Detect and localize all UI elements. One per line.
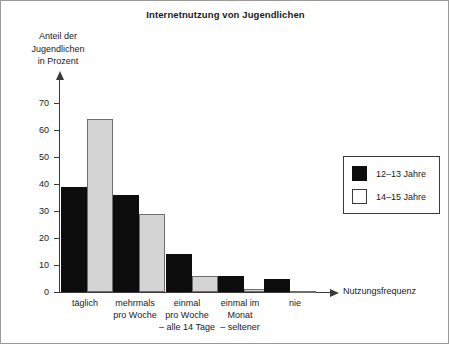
- y-tick-60: [54, 130, 59, 131]
- y-tick-30: [54, 211, 59, 212]
- legend-item-12-13: 12–13 Jahre: [352, 164, 431, 183]
- bar-12-13-einmal-pro-woche: [166, 254, 192, 292]
- y-axis-line: [59, 79, 60, 292]
- y-axis-label-line-2: Jugendlichen: [15, 43, 101, 56]
- legend-label-12-13: 12–13 Jahre: [376, 169, 426, 179]
- x-category-label-nie: nie: [259, 297, 331, 309]
- y-axis-label-line-1: Anteil der: [15, 30, 101, 43]
- chart-figure: Internetnutzung von Jugendlichen Anteil …: [0, 0, 449, 344]
- y-tick-label-40: 40: [17, 180, 49, 189]
- bar-14-15-mehrmals-pro-woche: [139, 214, 165, 292]
- y-tick-40: [54, 184, 59, 185]
- y-tick-label-0: 0: [17, 288, 49, 297]
- bar-14-15-taeglich: [87, 119, 113, 292]
- x-category-line: – seltener: [198, 321, 282, 333]
- y-tick-label-10: 10: [17, 261, 49, 270]
- y-tick-0: [54, 292, 59, 293]
- y-axis-label: Anteil der Jugendlichen in Prozent: [15, 30, 101, 68]
- chart-legend: 12–13 Jahre 14–15 Jahre: [343, 156, 440, 214]
- legend-item-14-15: 14–15 Jahre: [352, 187, 431, 206]
- legend-label-14-15: 14–15 Jahre: [376, 192, 426, 202]
- arrow-up-icon: [56, 71, 64, 80]
- bar-12-13-einmal-im-monat: [218, 276, 244, 292]
- white-square-icon: [352, 189, 367, 204]
- bar-12-13-nie: [264, 279, 290, 293]
- bar-14-15-einmal-pro-woche: [192, 276, 218, 292]
- y-tick-label-50: 50: [17, 153, 49, 162]
- y-tick-70: [54, 103, 59, 104]
- y-tick-50: [54, 157, 59, 158]
- y-tick-label-30: 30: [17, 207, 49, 216]
- y-tick-20: [54, 238, 59, 239]
- y-tick-label-60: 60: [17, 126, 49, 135]
- black-square-icon: [352, 166, 367, 181]
- bar-12-13-taeglich: [61, 187, 87, 292]
- x-axis-label: Nutzungsfrequenz: [343, 286, 416, 296]
- x-category-line: nie: [259, 297, 331, 309]
- chart-title: Internetnutzung von Jugendlichen: [1, 9, 449, 20]
- y-tick-label-70: 70: [17, 99, 49, 108]
- bar-12-13-mehrmals-pro-woche: [113, 195, 139, 292]
- arrow-right-icon: [330, 289, 339, 297]
- x-category-line: Monat: [198, 309, 282, 321]
- y-tick-10: [54, 265, 59, 266]
- y-tick-label-20: 20: [17, 234, 49, 243]
- bar-14-15-nie: [290, 291, 316, 293]
- y-axis-label-line-3: in Prozent: [15, 55, 101, 68]
